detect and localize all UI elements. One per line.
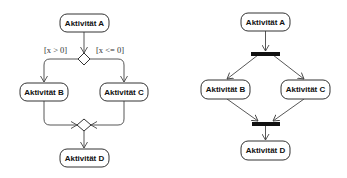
left-activity-a: Aktivität A: [60, 14, 109, 32]
activity-label: Aktivität A: [246, 18, 285, 27]
right-activity-b: Aktivität B: [201, 80, 250, 99]
left-activity-c: Aktivität C: [100, 83, 148, 101]
activity-label: Aktivität B: [206, 85, 246, 94]
decision-node: [78, 53, 90, 65]
activity-diagrams: [x > 0] [x <= 0] Aktivität A Aktivität B…: [0, 0, 347, 178]
join-bar: [252, 122, 280, 126]
activity-label: Aktivität A: [65, 19, 104, 28]
edge-c-to-join: [273, 99, 304, 121]
left-activity-d: Aktivität D: [60, 149, 109, 167]
guard-right: [x <= 0]: [96, 45, 124, 55]
edge-fork-to-c: [273, 55, 304, 79]
left-diagram: [x > 0] [x <= 0] Aktivität A Aktivität B…: [20, 14, 148, 167]
edge-fork-to-b: [227, 55, 258, 79]
left-activity-b: Aktivität B: [20, 83, 68, 101]
right-activity-d: Aktivität D: [241, 141, 290, 160]
edge-b-to-merge: [44, 101, 77, 125]
edge-decision-to-c: [90, 59, 124, 82]
fork-bar: [251, 52, 280, 56]
merge-node: [77, 119, 91, 131]
guard-left: [x > 0]: [44, 45, 67, 55]
right-activity-c: Aktivität C: [281, 80, 330, 99]
activity-label: Aktivität B: [24, 88, 64, 97]
edge-b-to-join: [227, 99, 258, 121]
activity-label: Aktivität C: [286, 85, 326, 94]
edge-decision-to-b: [44, 59, 78, 82]
right-diagram: Aktivität A Aktivität B Aktivität C Akti…: [201, 13, 330, 160]
activity-label: Aktivität D: [246, 146, 286, 155]
edge-c-to-merge: [91, 101, 124, 125]
right-activity-a: Aktivität A: [241, 13, 290, 31]
activity-label: Aktivität D: [65, 154, 105, 163]
activity-label: Aktivität C: [104, 88, 144, 97]
